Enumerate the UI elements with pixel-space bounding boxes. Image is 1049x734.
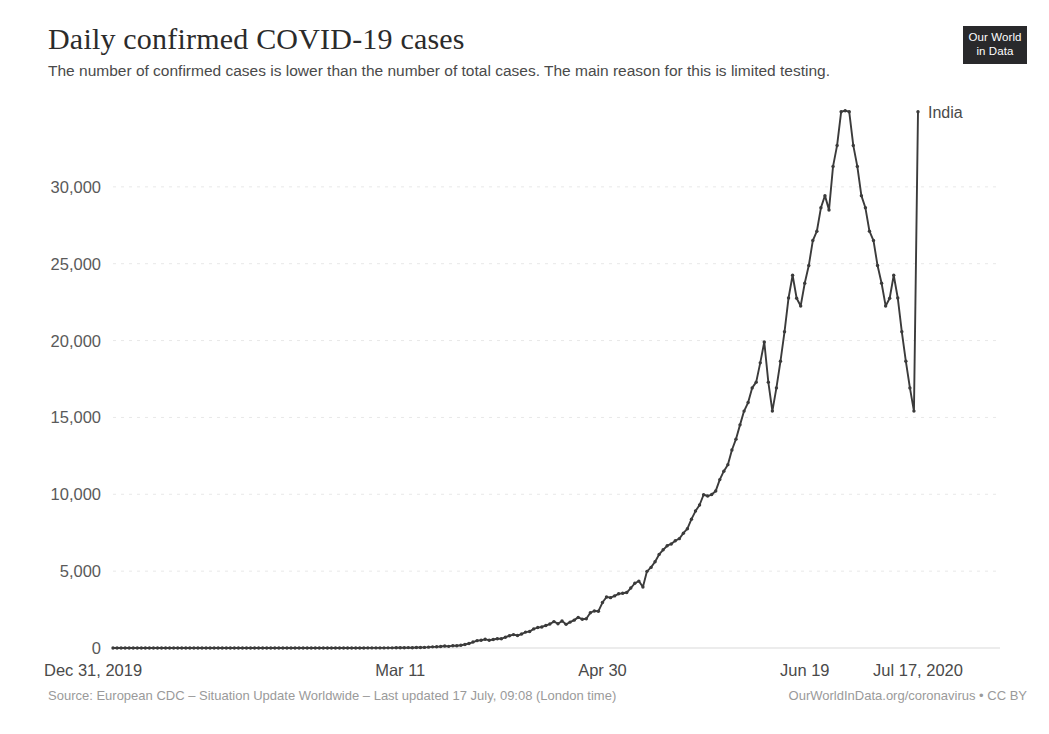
data-point [423,646,426,649]
data-point [682,532,685,535]
data-point [629,586,632,589]
x-tick-label: Apr 30 [578,661,627,679]
data-point [544,624,547,627]
data-point [483,638,486,641]
line-chart: 05,00010,00015,00020,00025,00030,000 Dec… [0,0,1049,700]
data-point [577,616,580,619]
data-point [394,646,397,649]
data-point [843,109,846,112]
data-point [354,646,357,649]
data-point [407,646,410,649]
data-point [512,633,515,636]
source-note: Source: European CDC – Situation Update … [48,688,616,703]
data-point [378,646,381,649]
chart-card: Daily confirmed COVID-19 cases The numbe… [0,0,1049,734]
data-point [427,645,430,648]
data-point [807,264,810,267]
data-point [144,646,147,649]
data-point [892,274,895,277]
data-point [726,463,729,466]
data-point [819,206,822,209]
data-point [714,489,717,492]
data-point [601,601,604,604]
data-point [803,282,806,285]
data-point [795,297,798,300]
data-point [722,470,725,473]
data-point [390,646,393,649]
y-tick-label: 0 [92,639,101,657]
data-point [633,582,636,585]
data-point [710,493,713,496]
data-point [386,646,389,649]
data-point [896,296,899,299]
data-point [208,646,211,649]
data-point [872,239,875,242]
data-point [431,645,434,648]
data-point [500,637,503,640]
data-point [496,637,499,640]
y-tick-label: 5,000 [60,562,101,580]
data-point [455,644,458,647]
data-point [666,544,669,547]
data-point [285,646,288,649]
data-point [225,646,228,649]
data-point [467,642,470,645]
data-point [443,644,446,647]
data-point [528,630,531,633]
data-point [848,110,851,113]
data-point [904,360,907,363]
plot-area: 05,00010,00015,00020,00025,00030,000 Dec… [0,0,1049,700]
data-point [261,646,264,649]
data-point [176,646,179,649]
data-point [305,646,308,649]
data-point [597,609,600,612]
data-point [900,330,903,333]
data-point [435,645,438,648]
data-point [763,340,766,343]
data-point [908,386,911,389]
x-axis-tick-labels: Dec 31, 2019Mar 11Apr 30Jun 19Jul 17, 20… [44,661,963,679]
data-point [330,646,333,649]
credit-note[interactable]: OurWorldInData.org/coronavirus • CC BY [789,688,1027,703]
series-line-india [113,111,918,648]
data-point [686,527,689,530]
data-point [702,493,705,496]
data-point [759,361,762,364]
x-tick-label: Jul 17, 2020 [873,661,963,679]
x-tick-label: Jun 19 [780,661,830,679]
data-point [326,646,329,649]
data-point [459,644,462,647]
data-point [508,634,511,637]
data-point [548,622,551,625]
data-point [289,646,292,649]
data-point [180,646,183,649]
data-point [374,646,377,649]
data-point [471,640,474,643]
data-point [750,386,753,389]
data-point [257,646,260,649]
data-point [297,646,300,649]
series-label-india: India [928,104,963,121]
data-point [775,386,778,389]
data-point [556,622,559,625]
data-point [132,646,135,649]
data-point [831,165,834,168]
data-point [779,360,782,363]
data-point [605,595,608,598]
x-tick-label: Mar 11 [375,661,425,679]
data-point [734,437,737,440]
data-point [310,646,313,649]
y-axis-tick-labels: 05,00010,00015,00020,00025,00030,000 [51,178,101,657]
data-point [123,646,126,649]
data-point [706,494,709,497]
data-point [488,638,491,641]
data-point [516,634,519,637]
data-point [860,194,863,197]
data-point [536,626,539,629]
data-point [674,539,677,542]
data-point [415,646,418,649]
data-point [888,297,891,300]
data-point [160,646,163,649]
data-point [447,645,450,648]
data-point [767,380,770,383]
